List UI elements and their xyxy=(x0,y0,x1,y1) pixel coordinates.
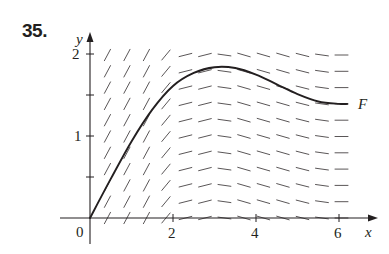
y-tick-label-1: 1 xyxy=(74,128,82,144)
slope-segment xyxy=(143,131,149,142)
slope-segment xyxy=(296,200,309,203)
slope-segment xyxy=(143,49,149,60)
slope-segment xyxy=(257,118,270,122)
slope-segment xyxy=(316,168,329,170)
slope-segment xyxy=(162,115,170,125)
slope-segment xyxy=(162,197,170,207)
slope-segment xyxy=(296,184,309,187)
slope-segment xyxy=(316,185,329,187)
slope-field xyxy=(104,49,348,223)
slope-segment xyxy=(179,102,192,105)
slope-segment xyxy=(257,167,270,171)
slope-segment xyxy=(162,50,170,60)
slope-segment xyxy=(218,136,231,138)
slope-segment xyxy=(257,135,270,139)
x-axis-arrow-icon xyxy=(368,215,378,222)
slope-segment xyxy=(218,87,231,89)
slope-segment xyxy=(316,87,329,89)
slope-segment xyxy=(179,53,192,56)
slope-segment xyxy=(218,103,231,105)
slope-segment xyxy=(238,151,251,155)
slope-segment xyxy=(104,163,110,174)
slope-segment xyxy=(238,102,251,106)
slope-segment xyxy=(257,200,270,204)
slope-segment xyxy=(218,152,231,154)
slope-segment xyxy=(104,98,110,109)
slope-segment xyxy=(257,70,270,74)
slope-segment xyxy=(316,70,329,72)
slope-segment xyxy=(162,180,170,190)
slope-segment xyxy=(316,119,329,121)
slope-segment xyxy=(257,86,270,90)
slope-segment xyxy=(277,118,290,122)
slope-segment xyxy=(257,53,270,57)
slope-segment xyxy=(199,135,212,138)
slope-segment xyxy=(199,151,212,154)
slope-segment xyxy=(277,151,290,155)
slope-segment xyxy=(277,200,290,204)
slope-segment xyxy=(104,66,110,77)
slope-segment xyxy=(124,196,130,207)
slope-segment xyxy=(218,185,231,187)
slope-segment xyxy=(277,135,290,139)
x-tick-label-6: 6 xyxy=(334,225,342,241)
x-tick-label-2: 2 xyxy=(168,225,176,241)
slope-segment xyxy=(124,180,130,191)
slope-segment xyxy=(124,163,130,174)
slope-segment xyxy=(104,82,110,93)
slope-segment xyxy=(277,102,290,106)
slope-field-figure: 35. y 2 1 0 2 4 6 x F xyxy=(0,0,389,254)
slope-segment xyxy=(238,135,251,139)
slope-segment xyxy=(296,70,309,73)
slope-segment xyxy=(104,147,110,158)
slope-segment xyxy=(124,66,130,77)
slope-segment xyxy=(296,135,309,138)
slope-segment xyxy=(218,119,231,121)
slope-segment xyxy=(143,98,149,109)
x-axis-label: x xyxy=(364,224,372,240)
slope-segment xyxy=(124,49,130,60)
slope-segment xyxy=(257,151,270,155)
slope-segment xyxy=(218,201,231,203)
origin-label: 0 xyxy=(76,224,84,240)
slope-segment xyxy=(296,119,309,122)
slope-segment xyxy=(199,184,212,187)
slope-segment xyxy=(199,53,212,56)
slope-segment xyxy=(296,168,309,171)
slope-segment xyxy=(316,54,329,56)
y-axis-arrow-icon xyxy=(87,32,94,42)
slope-segment xyxy=(296,53,309,56)
slope-segment xyxy=(179,200,192,203)
slope-segment xyxy=(257,184,270,188)
slope-segment xyxy=(238,167,251,171)
slope-segment xyxy=(277,184,290,188)
slope-segment xyxy=(143,147,149,158)
slope-segment xyxy=(104,196,110,207)
slope-segment xyxy=(257,102,270,106)
slope-segment xyxy=(296,102,309,105)
slope-segment xyxy=(277,70,290,74)
slope-segment xyxy=(143,163,149,174)
slope-segment xyxy=(218,168,231,170)
slope-segment xyxy=(143,180,149,191)
slope-segment xyxy=(238,86,251,90)
slope-segment xyxy=(238,184,251,188)
slope-segment xyxy=(143,82,149,93)
slope-segment xyxy=(162,132,170,142)
slope-segment xyxy=(199,102,212,105)
slope-segment xyxy=(143,196,149,207)
slope-segment xyxy=(238,200,251,204)
slope-segment xyxy=(277,53,290,57)
y-axis-label: y xyxy=(74,31,83,47)
slope-segment xyxy=(179,168,192,171)
slope-segment xyxy=(296,86,309,89)
curve-label-F: F xyxy=(357,96,368,112)
slope-segment xyxy=(162,148,170,158)
slope-segment xyxy=(162,99,170,109)
slope-segment xyxy=(199,119,212,122)
slope-segment xyxy=(179,86,192,89)
slope-segment xyxy=(104,115,110,126)
slope-segment xyxy=(179,119,192,122)
slope-segment xyxy=(104,49,110,60)
y-tick-label-2: 2 xyxy=(72,46,80,62)
